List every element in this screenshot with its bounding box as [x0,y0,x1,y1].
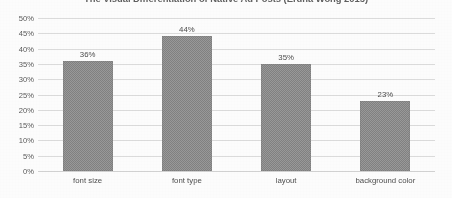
x-axis-category-label: layout [237,176,336,185]
y-axis-tick-label: 30% [19,75,34,84]
y-axis-tick-label: 0% [23,167,34,176]
y-axis-tick-label: 25% [19,90,34,99]
bar-chart: The Visual Differentiation of Native Ad … [0,0,452,198]
y-axis-tick-label: 10% [19,136,34,145]
y-axis-tick-label: 50% [19,14,34,23]
chart-title: The Visual Differentiation of Native Ad … [0,0,452,4]
y-axis-tick-label: 40% [19,44,34,53]
x-axis-category-label: background color [336,176,435,185]
bar-value-label: 23% [360,90,410,99]
bar [261,64,311,171]
bar-slot: 44% [162,18,212,171]
bar-slot: 35% [261,18,311,171]
axis-baseline [38,171,435,172]
bar [360,101,410,171]
x-axis: font sizefont typelayoutbackground color [38,176,435,194]
bar [63,61,113,171]
bar [162,36,212,171]
x-axis-category-label: font type [137,176,236,185]
bars-layer: 36%44%35%23% [38,18,435,171]
y-axis-tick-label: 35% [19,59,34,68]
x-axis-category-label: font size [38,176,137,185]
y-axis-tick-label: 15% [19,121,34,130]
bar-slot: 23% [360,18,410,171]
y-axis-tick-label: 45% [19,29,34,38]
y-axis-tick-label: 5% [23,151,34,160]
bar-slot: 36% [63,18,113,171]
y-axis: 50%45%40%35%30%25%20%15%10%5%0% [0,18,34,171]
bar-value-label: 35% [261,53,311,62]
bar-value-label: 44% [162,25,212,34]
bar-value-label: 36% [63,50,113,59]
y-axis-tick-label: 20% [19,105,34,114]
